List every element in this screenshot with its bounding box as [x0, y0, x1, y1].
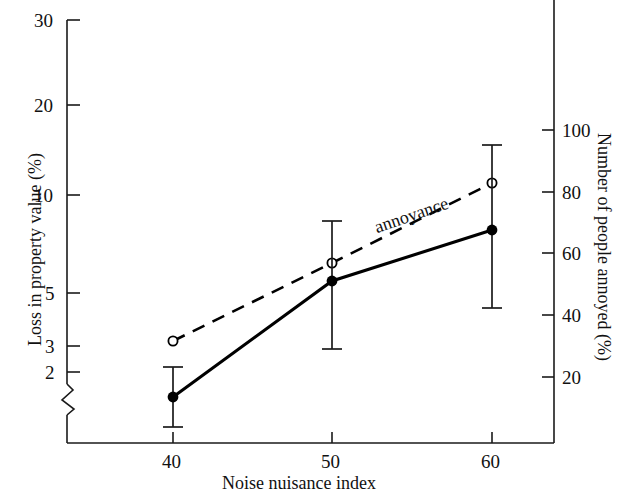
- property-loss-point-60: [487, 225, 498, 236]
- bottom-tick-label-50: 50: [321, 452, 340, 471]
- bottom-tick-label-60: 60: [481, 452, 500, 471]
- left-tick-label-2: 2: [45, 363, 55, 382]
- chart-canvas: [0, 0, 629, 494]
- right-tick-label-40: 40: [562, 306, 581, 325]
- right-tick-label-80: 80: [562, 183, 581, 202]
- left-tick-label-3: 3: [45, 337, 55, 356]
- right-tick-label-100: 100: [562, 121, 591, 140]
- axis-frame: [62, 0, 554, 443]
- bottom-axis-ticks: [173, 432, 492, 443]
- left-tick-label-5: 5: [45, 284, 55, 303]
- right-tick-label-20: 20: [562, 368, 581, 387]
- left-axis-ticks: [67, 20, 80, 372]
- property-loss-point-50: [327, 276, 338, 287]
- annoyance-point-40: [168, 336, 177, 345]
- chart-figure: 30 20 10 5 3 2 100 80 60 40 20 40 50 60 …: [0, 0, 629, 494]
- bottom-tick-label-40: 40: [162, 452, 181, 471]
- left-tick-label-30: 30: [34, 11, 53, 30]
- x-axis-title: Noise nuisance index: [222, 474, 376, 492]
- right-tick-label-60: 60: [562, 244, 581, 263]
- right-axis-ticks: [542, 130, 554, 377]
- left-tick-label-20: 20: [34, 96, 53, 115]
- y-axis-left-title: Loss in property value (%): [26, 153, 44, 346]
- y-axis-right-title: Number of people annoyed (%): [595, 133, 613, 361]
- property-loss-point-40: [168, 392, 179, 403]
- axis-break-symbol: [62, 384, 74, 415]
